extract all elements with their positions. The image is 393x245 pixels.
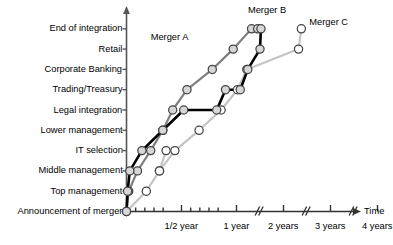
y-axis-label: Corporate Banking	[45, 65, 123, 74]
data-point-merger-c	[297, 25, 305, 33]
data-point-merger-c	[142, 187, 150, 195]
data-point-merger-b	[236, 86, 244, 94]
data-point-merger-a	[183, 86, 191, 94]
data-point-merger-b	[244, 65, 252, 73]
y-axis-label: Trading/Treasury	[53, 85, 123, 94]
data-point-merger-b	[257, 25, 265, 33]
data-point-merger-b	[180, 106, 188, 114]
x-axis-tick-label: 1/2 year	[165, 222, 199, 231]
series-annotation-label: Merger A	[151, 33, 189, 42]
data-point-merger-c	[162, 147, 170, 155]
series-annotation-label: Merger B	[248, 6, 286, 15]
y-axis-label: Lower management	[41, 126, 123, 135]
y-axis-label: Retail	[99, 45, 123, 54]
data-point-merger-b	[221, 86, 229, 94]
y-axis-label: Middle management	[39, 166, 123, 175]
series-line-merger-b	[127, 29, 261, 212]
x-axis-tick-label: 2 years	[268, 222, 299, 231]
y-axis-label: End of integration	[50, 24, 123, 33]
data-point-merger-b	[122, 207, 130, 215]
y-axis-arrow	[123, 6, 130, 14]
x-axis-tick-label: 3 years	[315, 222, 346, 231]
y-axis-label: IT selection	[76, 146, 123, 155]
data-point-merger-a	[133, 167, 141, 175]
data-point-merger-a	[208, 65, 216, 73]
data-point-merger-c	[155, 167, 163, 175]
data-point-merger-c	[171, 147, 179, 155]
data-point-merger-b	[126, 167, 134, 175]
series-line-merger-a	[127, 29, 258, 212]
y-axis-label: Legal integration	[54, 106, 123, 115]
data-point-merger-c	[195, 126, 203, 134]
data-point-merger-a	[229, 45, 237, 53]
data-point-merger-b	[213, 106, 221, 114]
y-axis-label: Top management	[51, 187, 123, 196]
series-annotation-label: Merger C	[309, 18, 348, 27]
x-axis-title: Time	[364, 207, 384, 216]
data-point-merger-c	[294, 45, 302, 53]
x-axis-tick-label: 1 year	[224, 222, 250, 231]
series-line-merger-c	[127, 29, 302, 212]
data-point-merger-b	[159, 126, 167, 134]
data-point-merger-a	[147, 147, 155, 155]
data-point-merger-b	[256, 45, 264, 53]
data-point-merger-b	[124, 187, 132, 195]
data-point-merger-a	[169, 106, 177, 114]
y-axis-label: Announcement of merger	[18, 207, 123, 216]
x-axis-tick-label: 4 years	[362, 222, 393, 231]
data-point-merger-b	[138, 147, 146, 155]
